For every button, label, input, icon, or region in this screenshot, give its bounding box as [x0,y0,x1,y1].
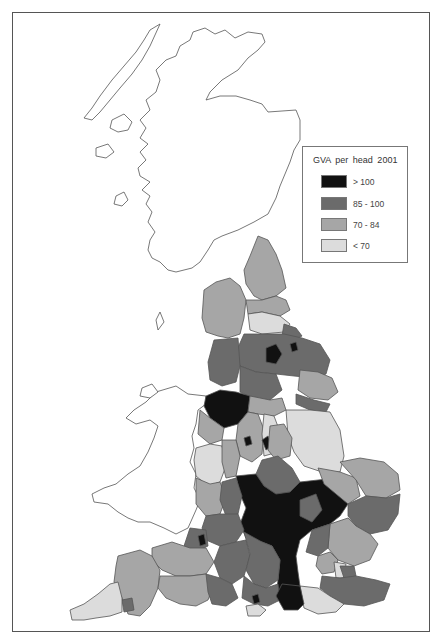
legend-label: 70 - 84 [353,220,379,230]
region-lancashire [208,338,240,386]
region-east-yorkshire [298,370,338,400]
region-staffordshire [222,440,240,478]
legend-item-above-100: > 100 [321,175,375,188]
scotland-outline [138,28,300,272]
legend-item-70-84: 70 - 84 [321,218,379,231]
skye [110,114,132,132]
legend-label: > 100 [353,177,375,187]
region-gloucestershire [202,514,244,546]
legend-item-below-70: < 70 [321,239,370,252]
swatch-below-70 [321,239,347,252]
legend-label: < 70 [353,241,370,251]
islay [114,192,128,206]
map-canvas [0,0,445,642]
region-isle-of-wight [246,604,266,616]
region-plymouth [122,598,134,612]
legend-label: 85 - 100 [353,199,384,209]
swatch-70-84 [321,218,347,231]
legend: GVA per head 2001 > 100 85 - 100 70 - 84… [302,146,408,263]
swatch-85-100 [321,197,347,210]
region-cumbria [202,278,246,338]
swatch-above-100 [321,175,347,188]
region-northumberland [244,236,286,300]
region-cornwall [70,582,122,620]
legend-item-85-100: 85 - 100 [321,197,384,210]
region-surrey [276,584,304,610]
arran [156,312,164,330]
legend-title: GVA per head 2001 [313,155,397,165]
mull [96,144,114,158]
region-dorset [158,574,214,606]
region-lincolnshire [286,410,344,472]
wales-outline [92,386,206,534]
